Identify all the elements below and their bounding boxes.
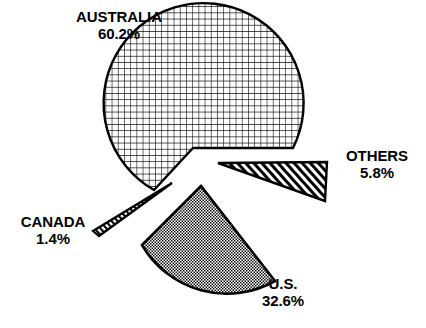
slice-label-australia-name: AUSTRALIA bbox=[57, 9, 181, 26]
slice-label-others-name: OTHERS bbox=[334, 148, 420, 165]
slice-label-others-value: 5.8% bbox=[334, 165, 420, 182]
pie-chart-figure: AUSTRALIA 60.2% OTHERS 5.8% CANADA 1.4% … bbox=[0, 0, 426, 328]
slice-label-australia-value: 60.2% bbox=[57, 26, 181, 43]
slice-label-us-name: U.S. bbox=[238, 276, 328, 293]
slice-label-us: U.S. 32.6% bbox=[238, 276, 328, 310]
slice-label-australia: AUSTRALIA 60.2% bbox=[57, 9, 181, 43]
slice-label-canada-name: CANADA bbox=[6, 214, 100, 231]
slice-label-canada-value: 1.4% bbox=[6, 231, 100, 248]
slice-label-us-value: 32.6% bbox=[238, 293, 328, 310]
slice-label-canada: CANADA 1.4% bbox=[6, 214, 100, 248]
pie-slice-others bbox=[218, 162, 327, 201]
slice-label-others: OTHERS 5.8% bbox=[334, 148, 420, 182]
